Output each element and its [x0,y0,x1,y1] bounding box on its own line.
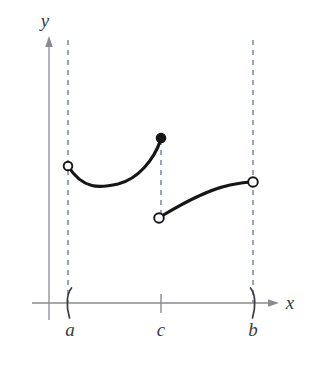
curves-group [68,139,252,217]
tick-label-b: b [248,319,258,340]
x-axis-label: x [285,292,295,313]
curve-right-branch [160,182,252,217]
curve-left-branch [68,139,161,186]
labels-group: y x a c b [39,10,295,340]
piecewise-function-graph: y x a c b [0,0,311,365]
guide-lines-group [68,40,253,303]
figure-container: y x a c b [0,0,311,365]
axes-group [32,36,279,320]
endpoint-open-circle-b [248,177,258,187]
right-arrow-icon [268,299,279,307]
endpoint-open-circle-a [64,162,73,171]
endpoint-markers-group [64,133,258,222]
y-axis-label: y [39,10,50,31]
tick-label-a: a [65,319,75,340]
endpoint-filled-circle-c [156,133,165,142]
endpoint-open-circle-c [154,213,164,223]
up-arrow-icon [45,36,53,47]
tick-label-c: c [157,319,166,340]
